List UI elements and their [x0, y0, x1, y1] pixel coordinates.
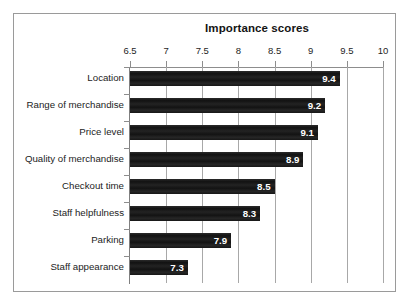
bar[interactable] [130, 260, 188, 275]
bar[interactable] [130, 152, 303, 167]
bar-row[interactable]: Range of merchandise9.2 [0, 94, 411, 121]
y-tick-mark [124, 256, 130, 257]
category-label: Staff appearance [50, 261, 124, 272]
bar-row[interactable]: Location9.4 [0, 67, 411, 94]
category-label: Quality of merchandise [25, 153, 124, 164]
bar[interactable] [130, 233, 231, 248]
chart-figure: Importance scores 6.577.588.599.510 Loca… [0, 0, 411, 304]
bar-row[interactable]: Checkout time8.5 [0, 175, 411, 202]
chart-title: Importance scores [130, 22, 384, 34]
y-tick-mark [124, 67, 130, 68]
bar-row[interactable]: Price level9.1 [0, 121, 411, 148]
category-label: Location [87, 72, 124, 83]
y-tick-mark [124, 202, 130, 203]
bar-row[interactable]: Staff helpfulness8.3 [0, 202, 411, 229]
bar[interactable] [130, 71, 340, 86]
bar-row[interactable]: Staff appearance7.3 [0, 256, 411, 283]
category-label: Staff helpfulness [53, 207, 124, 218]
x-tick-label: 8 [236, 45, 241, 56]
x-tick-label: 7.5 [196, 45, 209, 56]
y-tick-mark [124, 94, 130, 95]
y-tick-mark [124, 175, 130, 176]
category-label: Parking [91, 234, 124, 245]
category-label: Price level [79, 126, 124, 137]
x-tick-label: 10 [378, 45, 389, 56]
x-tick-label: 8.5 [268, 45, 281, 56]
y-tick-mark [124, 148, 130, 149]
y-tick-mark [124, 229, 130, 230]
x-tick-label: 7 [163, 45, 168, 56]
x-tick-label: 9.5 [340, 45, 353, 56]
x-tick-label: 6.5 [123, 45, 136, 56]
bar[interactable] [130, 206, 260, 221]
x-tick-label: 9 [308, 45, 313, 56]
bar[interactable] [130, 179, 275, 194]
bar-row[interactable]: Quality of merchandise8.9 [0, 148, 411, 175]
y-tick-mark [124, 121, 130, 122]
bar[interactable] [130, 98, 325, 113]
category-label: Range of merchandise [27, 99, 124, 110]
category-label: Checkout time [62, 180, 124, 191]
bar[interactable] [130, 125, 318, 140]
bar-row[interactable]: Parking7.9 [0, 229, 411, 256]
